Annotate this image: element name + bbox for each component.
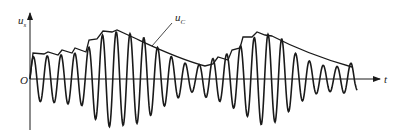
- envelope-label-leader: [152, 23, 172, 46]
- origin-label: O: [20, 74, 28, 86]
- y-axis-label: us: [18, 14, 27, 29]
- waveform-diagram: us O t uC: [0, 0, 399, 140]
- x-axis-label: t: [384, 73, 388, 85]
- envelope-label: uC: [175, 11, 186, 26]
